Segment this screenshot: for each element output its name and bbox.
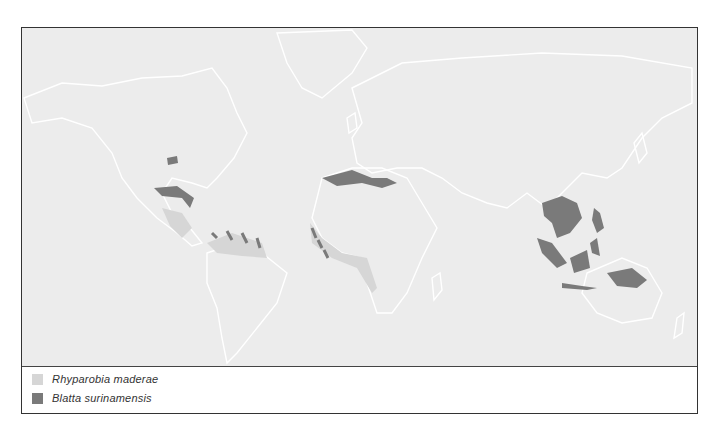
legend-swatch-light — [32, 374, 43, 385]
map-legend: Rhyparobia maderae Blatta surinamensis — [22, 367, 697, 413]
legend-item-rhyparobia-maderae: Rhyparobia maderae — [32, 373, 158, 385]
legend-label: Blatta surinamensis — [52, 392, 152, 404]
legend-swatch-dark — [32, 393, 43, 404]
world-map-svg — [22, 28, 697, 366]
world-map — [22, 28, 697, 367]
legend-item-blatta-surinamensis: Blatta surinamensis — [32, 392, 152, 404]
legend-label: Rhyparobia maderae — [52, 373, 158, 385]
map-figure: Rhyparobia maderae Blatta surinamensis — [21, 27, 698, 414]
